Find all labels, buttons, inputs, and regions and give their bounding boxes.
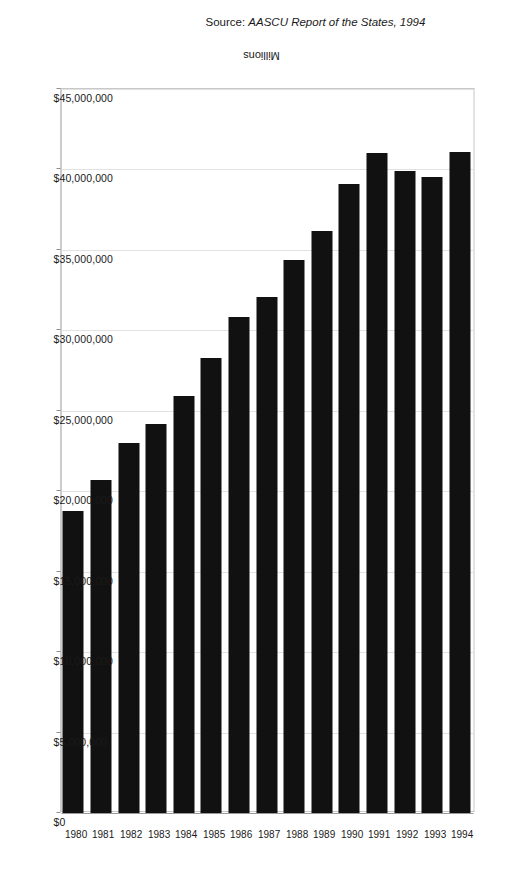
bar-row — [445, 89, 473, 811]
bar[interactable] — [90, 480, 111, 813]
value-axis-tick-label: $40,000,000 — [53, 172, 113, 184]
gridline — [61, 813, 473, 814]
rotated-figure-container: $45,000,000$40,000,000$35,000,000$30,000… — [0, 0, 505, 878]
bar[interactable] — [173, 396, 194, 813]
value-axis-tick-label: $0 — [53, 816, 65, 828]
category-axis-tick-label: 1990 — [340, 829, 360, 840]
bar-row — [363, 89, 391, 811]
bar-row — [114, 89, 142, 811]
bar-row — [197, 89, 225, 811]
bar[interactable] — [338, 184, 359, 813]
category-axis-tick-label: 1982 — [120, 829, 140, 840]
axis-tick — [56, 732, 60, 733]
value-axis-tick-label: $45,000,000 — [53, 92, 113, 104]
value-axis-tick-label: $20,000,000 — [53, 494, 113, 506]
value-axis-tick-label: $15,000,000 — [53, 575, 113, 587]
bar[interactable] — [256, 297, 277, 813]
bar-row — [87, 89, 115, 811]
value-axis-tick-label: $30,000,000 — [53, 333, 113, 345]
category-axis-tick-label: 1986 — [230, 829, 250, 840]
bars-layer — [61, 89, 473, 811]
bar-row — [335, 89, 363, 811]
bar-row — [169, 89, 197, 811]
category-axis-tick-label: 1980 — [64, 829, 84, 840]
category-axis-tick-label: 1993 — [423, 829, 443, 840]
axis-tick — [56, 651, 60, 652]
bar[interactable] — [449, 152, 470, 813]
value-axis-title: Millions — [243, 50, 280, 62]
bar[interactable] — [145, 424, 166, 813]
bar[interactable] — [118, 443, 139, 813]
bar[interactable] — [200, 358, 221, 813]
bar-row — [225, 89, 253, 811]
bar-row — [252, 89, 280, 811]
axis-tick — [56, 490, 60, 491]
bar[interactable] — [394, 171, 415, 813]
axis-tick — [56, 571, 60, 572]
axis-tick — [56, 249, 60, 250]
axis-tick — [56, 88, 60, 89]
source-text: AASCU Report of the States, 1994 — [248, 16, 425, 28]
value-axis-tick-label: $5,000,000 — [53, 736, 107, 748]
axis-tick — [56, 410, 60, 411]
value-axis-tick-label: $25,000,000 — [53, 414, 113, 426]
source-prefix: Source: — [205, 16, 248, 28]
bar-row — [142, 89, 170, 811]
bar-chart-figure: $45,000,000$40,000,000$35,000,000$30,000… — [0, 0, 505, 878]
bar-row — [418, 89, 446, 811]
bar[interactable] — [228, 317, 249, 813]
category-axis-tick-label: 1991 — [368, 829, 388, 840]
bar[interactable] — [421, 177, 442, 813]
value-axis-tick-label: $10,000,000 — [53, 655, 113, 667]
bar[interactable] — [311, 231, 332, 813]
category-axis-tick-label: 1984 — [175, 829, 195, 840]
axis-tick — [56, 812, 60, 813]
bar[interactable] — [283, 260, 304, 813]
bar-row — [390, 89, 418, 811]
bar-row — [280, 89, 308, 811]
bar-row — [59, 89, 87, 811]
bar[interactable] — [366, 153, 387, 813]
category-axis-tick-label: 1983 — [147, 829, 167, 840]
category-axis-tick-label: 1988 — [285, 829, 305, 840]
plot-area — [60, 88, 474, 812]
category-axis-tick-label: 1981 — [92, 829, 112, 840]
axis-tick — [56, 329, 60, 330]
category-axis-tick-label: 1985 — [202, 829, 222, 840]
bar-row — [307, 89, 335, 811]
value-axis-tick-label: $35,000,000 — [53, 253, 113, 265]
category-axis-tick-label: 1994 — [451, 829, 471, 840]
axis-tick — [56, 168, 60, 169]
category-axis-tick-label: 1992 — [396, 829, 416, 840]
category-axis-tick-label: 1987 — [258, 829, 278, 840]
source-note: Source: AASCU Report of the States, 1994 — [205, 16, 425, 28]
category-axis-tick-label: 1989 — [313, 829, 333, 840]
